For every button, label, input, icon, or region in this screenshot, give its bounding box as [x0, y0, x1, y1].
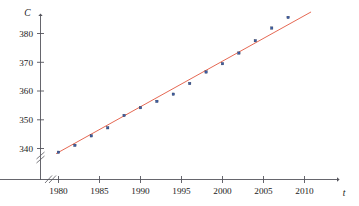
- data-point: [287, 16, 289, 18]
- regression-line: [56, 12, 311, 154]
- x-tick-label-2000: 2000: [213, 186, 232, 196]
- data-point: [238, 52, 240, 54]
- data-point: [90, 135, 92, 137]
- x-tick-label-2005: 2005: [254, 186, 273, 196]
- data-point-group: [57, 16, 289, 153]
- data-point: [57, 151, 59, 153]
- data-point: [221, 62, 223, 64]
- data-point: [107, 127, 109, 129]
- data-point: [254, 39, 256, 41]
- x-axis-label: t: [343, 188, 346, 198]
- data-point: [205, 71, 207, 73]
- y-axis-label: C: [24, 8, 31, 18]
- scatter-plot-figure: 380 370 360 350 340 C 1980 1985 1990 199…: [0, 0, 359, 206]
- y-tick-label-370: 370: [19, 58, 33, 68]
- x-tick-label-1995: 1995: [172, 186, 191, 196]
- y-tick-label-340: 340: [19, 144, 33, 154]
- x-tick-label-1985: 1985: [90, 186, 109, 196]
- data-point: [139, 106, 141, 108]
- data-point: [271, 27, 273, 29]
- x-tick-label-1990: 1990: [131, 186, 150, 196]
- y-tick-label-380: 380: [19, 29, 33, 39]
- y-tick-label-350: 350: [19, 115, 33, 125]
- x-tick-label-1980: 1980: [49, 186, 68, 196]
- y-tick-label-360: 360: [19, 86, 33, 96]
- data-point: [123, 114, 125, 116]
- data-point: [156, 100, 158, 102]
- plot-canvas: 380 370 360 350 340 C 1980 1985 1990 199…: [0, 0, 359, 206]
- x-tick-label-2010: 2010: [295, 186, 314, 196]
- data-point: [189, 82, 191, 84]
- data-point: [74, 144, 76, 146]
- data-point: [172, 93, 174, 95]
